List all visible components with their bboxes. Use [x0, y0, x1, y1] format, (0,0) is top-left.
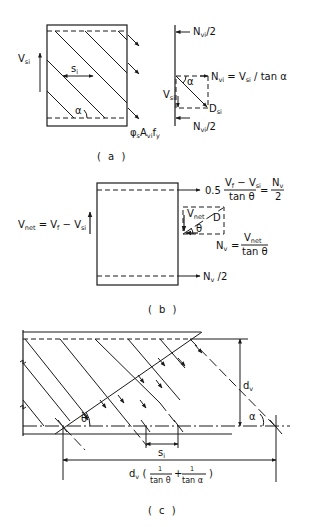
rhs-numerator: Nv: [272, 177, 283, 190]
span-label-close: ): [209, 468, 213, 479]
frac1-numerator: 1: [158, 465, 162, 473]
fraction-numerator: Vf − Vsi: [225, 177, 261, 190]
spacing-label: si: [158, 447, 165, 460]
stirrup-diagonals: [23, 339, 185, 426]
alpha-arc-small: [183, 76, 186, 83]
nv-equals: =: [231, 240, 239, 251]
span-label-prefix: dv (: [129, 468, 146, 481]
triangle-d-label: D: [213, 212, 221, 223]
alpha-arc: [260, 414, 264, 426]
nv-lhs: Nv: [216, 240, 227, 253]
frac1-denominator: tan θ: [150, 476, 171, 485]
panel-c: θ dv α si dv ( 1 tan θ + 1 tan α ): [20, 330, 290, 516]
triangle-theta-label: θ: [196, 223, 202, 234]
alpha-label: α: [75, 105, 82, 116]
dsi-label: Dsi: [209, 103, 222, 116]
panel-a: si α φsAvify Vsi Nvi/2 α Nvi = Vsi / tan…: [18, 25, 287, 162]
coefficient: 0.5: [205, 185, 221, 196]
node-ticks: [58, 415, 282, 482]
truss-model-figure: si α φsAvify Vsi Nvi/2 α Nvi = Vsi / tan…: [0, 0, 309, 527]
frac2-denominator: tan α: [182, 476, 203, 485]
rhs-denominator: 2: [275, 191, 281, 202]
spacing-label: si: [71, 63, 78, 76]
equals-sign: =: [260, 185, 268, 196]
tension-arrow: [128, 35, 139, 46]
nv-denominator: tan θ: [242, 246, 268, 257]
compression-strut-line: [55, 332, 202, 434]
break-mark: [20, 405, 26, 409]
triangle-alpha-label: α: [187, 76, 194, 87]
nv-numerator: Vnet: [244, 232, 262, 245]
tension-arrow: [128, 63, 139, 74]
frac2-numerator: 1: [190, 465, 194, 473]
triangle-vsi-label: Vsi: [163, 89, 175, 102]
shear-label: Vsi: [18, 53, 30, 66]
depth-label: dv: [243, 380, 253, 393]
caption-a: ( a ): [97, 151, 127, 162]
top-axial-label: Nvi/2: [193, 26, 216, 39]
diagonal-stirrups: [47, 31, 127, 118]
alpha-arc: [84, 110, 87, 118]
caption-c: ( c ): [148, 505, 178, 516]
net-shear-equation: Vnet = Vf − Vsi: [18, 219, 86, 232]
fraction-denominator: tan θ: [229, 191, 255, 202]
theta-label: θ: [81, 413, 87, 424]
alpha-label: α: [249, 411, 256, 422]
stirrup-continuations: [55, 339, 275, 450]
bottom-axial-label: Nvi/2: [193, 121, 216, 134]
bottom-axial-label: Nv /2: [203, 271, 227, 284]
panel-b: Vnet = Vf − Vsi 0.5 Vf − Vsi tan θ = Nv …: [18, 177, 284, 315]
web-element-box: [97, 183, 178, 285]
caption-b: ( b ): [148, 304, 179, 315]
triangle-vnet-label: Vnet: [187, 208, 205, 221]
nvi-equation: Nvi = Vsi / tan α: [211, 71, 287, 84]
tension-arrow: [128, 108, 139, 119]
tension-arrows: [82, 345, 202, 420]
stirrup-force-label: φsAvify: [130, 127, 160, 140]
